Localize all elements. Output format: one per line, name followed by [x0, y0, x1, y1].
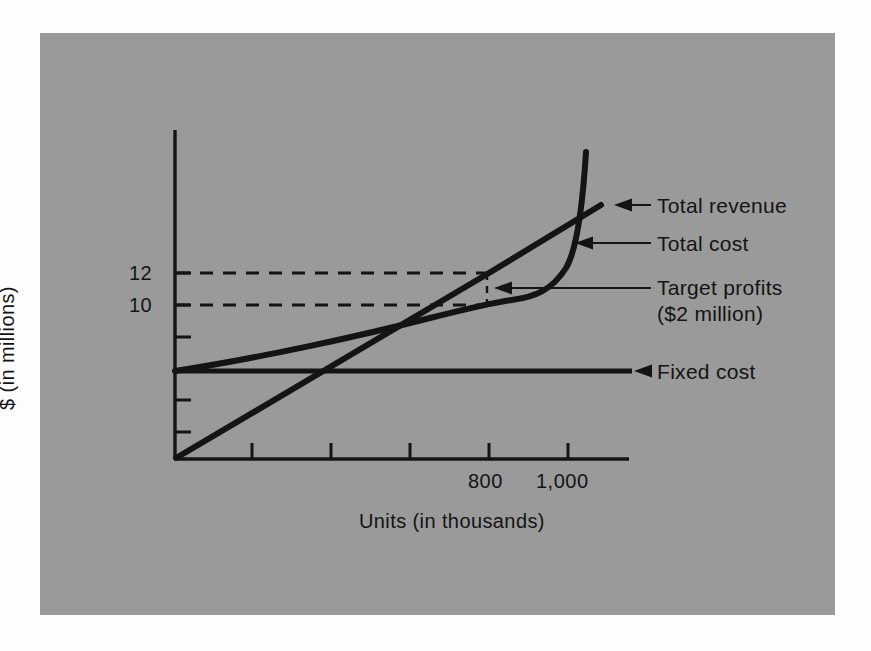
series-total-revenue-line	[176, 205, 601, 458]
annotation-fixed-cost: Fixed cost	[657, 360, 756, 384]
page-bleed-through-artifact	[420, 622, 850, 642]
annotation-target-profits: Target profits	[657, 276, 783, 300]
y-tick-label-10: 10	[129, 294, 152, 317]
axis-lines	[175, 130, 629, 459]
arrowhead-total-cost	[578, 238, 592, 248]
arrowhead-fixed-cost	[637, 366, 651, 376]
y-tick-label-12: 12	[129, 262, 152, 285]
y-axis-ticks	[175, 273, 191, 432]
annotation-leaders	[497, 200, 651, 376]
x-axis-ticks	[252, 443, 568, 459]
y-axis-title: $ (in millions)	[0, 248, 19, 448]
annotation-total-revenue: Total revenue	[657, 194, 787, 218]
x-tick-label-1000: 1,000	[536, 470, 589, 493]
annotation-total-cost: Total cost	[657, 232, 749, 256]
annotation-target-profits-amount: ($2 million)	[657, 302, 763, 326]
arrowhead-target-profits	[497, 283, 511, 293]
figure-page: $ (in millions) 12 10 800 1,000 Units (i…	[0, 0, 871, 651]
x-axis-title: Units (in thousands)	[359, 510, 545, 533]
arrowhead-total-revenue	[617, 200, 631, 210]
x-tick-label-800: 800	[468, 470, 503, 493]
